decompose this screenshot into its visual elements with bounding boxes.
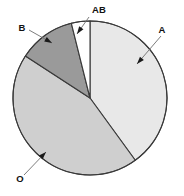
pie-label-ab: AB <box>92 4 106 15</box>
pie-label-a: A <box>158 24 165 35</box>
pie-chart-figure: AB B A O <box>0 0 184 196</box>
pie-label-b: B <box>18 22 25 33</box>
callout-b: B <box>18 22 52 43</box>
callout-o: O <box>16 152 46 184</box>
pie-chart-svg: AB B A O <box>0 0 184 196</box>
pie-slices <box>13 21 167 175</box>
pie-label-o: O <box>16 173 24 184</box>
